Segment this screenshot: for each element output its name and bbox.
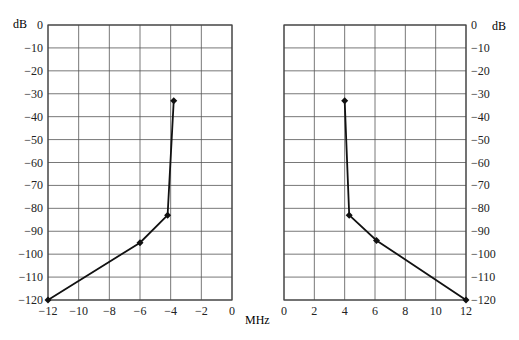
y-tick-label: −40: [24, 110, 43, 124]
y-tick-label: −60: [471, 156, 490, 170]
y-tick-label: −90: [24, 224, 43, 238]
x-tick-label: 0: [281, 304, 287, 318]
y-tick-label: −50: [24, 133, 43, 147]
y-tick-label: −30: [471, 87, 490, 101]
x-tick-label: −4: [164, 304, 177, 318]
y-tick-label: −50: [471, 133, 490, 147]
x-tick-label: 6: [372, 304, 378, 318]
y-tick-label: −20: [471, 64, 490, 78]
y-tick-label: 0: [471, 18, 477, 32]
y-unit-right: dB: [492, 19, 506, 34]
y-tick-label: −100: [18, 247, 43, 261]
y-tick-label: −120: [18, 293, 43, 307]
y-tick-label: −110: [19, 270, 43, 284]
y-tick-label: −10: [24, 41, 43, 55]
chart-panel-right: 0246810120−10−20−30−40−50−60−70−80−90−10…: [281, 18, 496, 318]
x-tick-label: −8: [103, 304, 116, 318]
y-tick-label: −80: [24, 201, 43, 215]
y-tick-label: 0: [37, 18, 43, 32]
y-tick-label: −90: [471, 224, 490, 238]
series-line: [48, 101, 174, 300]
y-tick-label: −100: [471, 247, 496, 261]
y-tick-label: −110: [471, 270, 495, 284]
x-unit-label: MHz: [245, 313, 270, 328]
x-tick-label: 0: [229, 304, 235, 318]
y-unit-left: dB: [13, 17, 27, 32]
data-point-marker: [170, 97, 177, 104]
x-tick-label: 8: [402, 304, 408, 318]
spectrum-mask-charts: −12−10−8−6−4−200−10−20−30−40−50−60−70−80…: [0, 0, 519, 340]
y-tick-label: −30: [24, 87, 43, 101]
x-tick-label: −10: [69, 304, 88, 318]
x-tick-label: −6: [134, 304, 147, 318]
x-tick-label: 2: [311, 304, 317, 318]
x-tick-label: 10: [430, 304, 442, 318]
y-tick-label: −60: [24, 156, 43, 170]
x-tick-label: 4: [342, 304, 348, 318]
chart-panel-left: −12−10−8−6−4−200−10−20−30−40−50−60−70−80…: [18, 18, 235, 318]
data-point-marker: [341, 97, 348, 104]
y-tick-label: −80: [471, 201, 490, 215]
y-tick-label: −40: [471, 110, 490, 124]
y-tick-label: −120: [471, 293, 496, 307]
y-tick-label: −70: [471, 178, 490, 192]
y-tick-label: −70: [24, 178, 43, 192]
x-tick-label: −2: [195, 304, 208, 318]
y-tick-label: −20: [24, 64, 43, 78]
y-tick-label: −10: [471, 41, 490, 55]
